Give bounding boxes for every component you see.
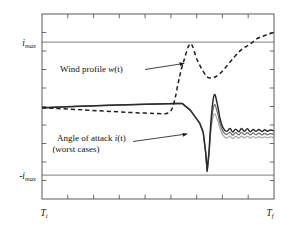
annotation-wind-profile-plain: Wind profile: [60, 64, 108, 74]
wind-profile-angle-of-attack-chart: imax -imax Ti Tf Wind profile w(t) Angle…: [0, 0, 296, 233]
y-axis-label-neg-imax: -imax: [19, 171, 36, 182]
x-axis-label-ti-sub: i: [46, 212, 48, 219]
y-axis-label-imax: imax: [22, 38, 36, 49]
y-axis-label-imax-sub: max: [25, 42, 36, 49]
y-axis-label-neg-imax-sub: max: [25, 175, 36, 182]
x-axis-label-ti: Ti: [40, 208, 47, 219]
annotation-wind-profile-tail: (t): [114, 64, 123, 74]
chart-figure: imax -imax Ti Tf Wind profile w(t) Angle…: [0, 0, 296, 233]
annotation-angle-of-attack-tail: (t): [117, 133, 126, 143]
annotation-wind-profile-text: Wind profile w(t): [60, 64, 123, 74]
annotation-angle-of-attack-line1: Angle of attack i(t): [57, 133, 126, 143]
x-axis-label-tf-sub: f: [272, 212, 275, 219]
annotation-angle-of-attack-line2: (worst cases): [52, 144, 99, 154]
x-axis-label-tf: Tf: [266, 208, 274, 219]
annotation-angle-of-attack-plain: Angle of attack: [57, 133, 115, 143]
